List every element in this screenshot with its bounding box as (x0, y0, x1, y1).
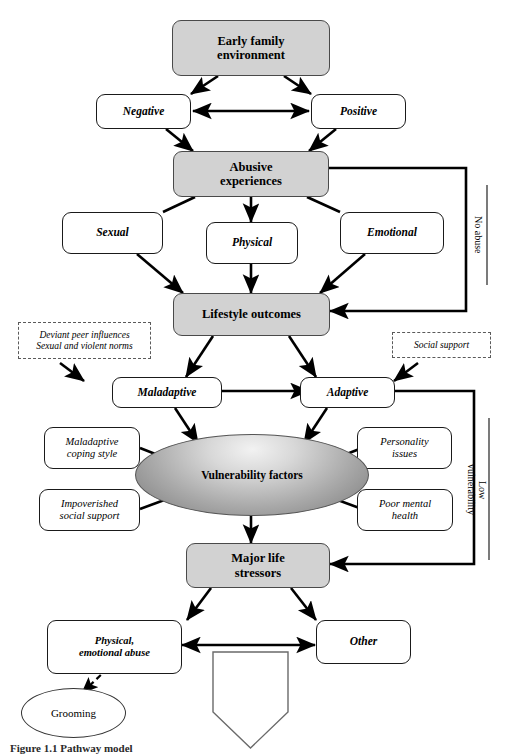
node-grooming: Grooming (21, 688, 126, 738)
node-emotional: Emotional (340, 212, 444, 254)
node-maladaptive-coping-style: Maladaptive coping style (44, 427, 140, 469)
node-vulnerability-factors: Vulnerability factors (135, 434, 369, 516)
node-lifestyle-outcomes: Lifestyle outcomes (173, 293, 330, 336)
node-personality-issues: Personality issues (357, 427, 452, 469)
node-adaptive: Adaptive (300, 377, 395, 408)
node-social-support: Social support (392, 332, 491, 358)
node-impoverished-social-support: Impoverished social support (39, 489, 140, 531)
node-positive: Positive (311, 94, 406, 129)
node-maladaptive: Maladaptive (112, 377, 222, 408)
node-early-family-environment: Early family environment (172, 20, 330, 76)
node-poor-mental-health: Poor mental health (357, 489, 453, 531)
figure-caption: Figure 1.1 Pathway model (10, 742, 133, 754)
figure-canvas: Early family environment Negative Positi… (0, 0, 505, 755)
node-other: Other (316, 620, 411, 664)
node-deviant-peer-influences: Deviant peer influences Sexual and viole… (18, 322, 151, 359)
node-abusive-experiences: Abusive experiences (173, 151, 329, 197)
node-negative: Negative (96, 94, 191, 129)
node-physical: Physical (206, 222, 298, 264)
edge-label-low-vulnerability: Low vulnerability (466, 440, 488, 540)
node-major-life-stressors: Major life stressors (186, 543, 330, 588)
node-physical-emotional-abuse: Physical, emotional abuse (47, 620, 182, 674)
edge-label-no-abuse: No abuse (468, 200, 484, 270)
node-sexual: Sexual (62, 212, 163, 254)
